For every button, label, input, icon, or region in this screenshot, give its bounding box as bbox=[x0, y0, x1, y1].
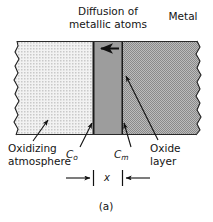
region-oxidizing-atmosphere bbox=[14, 41, 93, 135]
figure-caption: (a) bbox=[76, 200, 136, 213]
label-metal: Metal bbox=[160, 10, 206, 23]
diagram-canvas bbox=[0, 0, 213, 222]
figure-oxidation-diffusion: Diffusion of metallic atoms Metal Oxidiz… bbox=[0, 0, 213, 222]
label-concentration-metal-side: Cm bbox=[114, 148, 142, 165]
region-oxide-layer bbox=[93, 41, 123, 135]
label-thickness-x: x bbox=[100, 172, 114, 185]
label-cm-subscript: m bbox=[121, 153, 128, 162]
label-concentration-oxide-side: Co bbox=[66, 148, 92, 165]
label-co-subscript: o bbox=[73, 153, 78, 162]
label-oxide-layer: Oxide layer bbox=[150, 142, 208, 167]
title-diffusion-of-metallic-atoms: Diffusion of metallic atoms bbox=[56, 5, 160, 30]
